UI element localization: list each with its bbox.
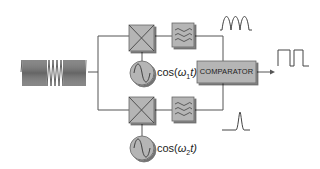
input-signal-waveform <box>21 60 86 86</box>
digital-output-waveform <box>278 50 309 66</box>
label-prefix: cos( <box>157 66 178 78</box>
label-suffix: t) <box>190 142 197 154</box>
label-prefix: cos( <box>157 142 178 154</box>
upper-output-waveform <box>220 17 252 31</box>
output-arrow-icon <box>270 70 275 75</box>
lower-lowpass-filter <box>172 97 194 121</box>
upper-oscillator-label: cos(ω1t) <box>157 66 197 80</box>
upper-oscillator-icon <box>130 61 154 85</box>
comparator-label: COMPARATOR <box>197 67 256 76</box>
upper-mixer <box>129 25 154 51</box>
lower-output-waveform <box>222 112 250 130</box>
upper-lowpass-filter <box>172 23 194 47</box>
label-suffix: t) <box>190 66 197 78</box>
lower-oscillator-icon <box>130 136 154 160</box>
lower-oscillator-label: cos(ω2t) <box>157 142 197 156</box>
lower-mixer <box>129 97 154 123</box>
